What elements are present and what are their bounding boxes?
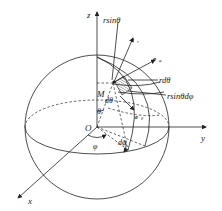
e-theta-label: e [135,113,138,121]
y-axis-label: y [200,133,205,143]
e-r-sub: r [137,39,139,44]
e-theta-sub: θ [141,116,144,121]
e-r-label: e [131,36,134,44]
d-phi-label: dφ [118,138,127,147]
e-phi-sub: φ [159,58,162,63]
r-sin-theta-label: rsinθ [103,15,120,25]
phi-label: φ [93,142,98,151]
axes [18,12,206,198]
x-axis-label: x [27,196,32,206]
d-theta-label: dθ [105,96,113,105]
surface-element [115,76,132,95]
e-theta-vector [120,96,134,110]
theta-label: θ [97,107,101,116]
e-phi-vector [114,60,155,82]
r-dtheta-label: rdθ [159,75,170,85]
r-sin-theta-dphi-label: rsinθdφ [167,91,194,101]
e-r-vector [114,38,133,82]
z-axis-label: z [86,10,91,20]
e-phi-label: e [153,55,156,63]
point-M-label: M [96,89,105,99]
origin-label: O [85,123,92,133]
spherical-coordinates-diagram: z y x O M rsinθ e r e φ e θ rdθ rsinθdφ … [0,0,222,211]
unit-vectors [114,38,155,110]
